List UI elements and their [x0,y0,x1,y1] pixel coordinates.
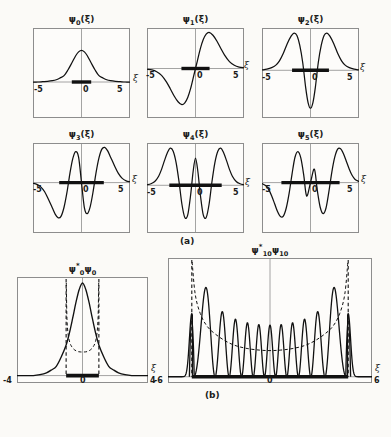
xtick-zero: 0 [197,71,203,80]
xtick-zero: 0 [83,185,89,194]
plot-psi1 [147,28,244,118]
axis-label-xi: ξ [245,177,250,187]
xtick-left: -5 [34,85,43,94]
axis-label-xi: ξ [361,174,366,184]
axis-label-xi: ξ [375,363,380,373]
axis-label-xi: ξ [244,60,249,70]
xtick-zero: 0 [312,185,318,194]
panel-title-psi4: ψ4(ξ) [147,129,244,142]
axis-label-xi: ξ [360,62,365,72]
panel-psi2: ψ2(ξ) -5 0 5 ξ [262,28,359,118]
plot-psi4 [147,143,244,233]
panel-psi3: ψ3(ξ) -5 0 5 ξ [33,143,130,233]
xtick-right: 5 [347,73,353,82]
xtick-left: -5 [262,185,271,194]
axis-label-xi: ξ [133,73,138,83]
xtick-right: 5 [118,185,124,194]
xtick-right: 5 [347,185,353,194]
axis-label-xi: ξ [132,174,137,184]
xtick-zero: 0 [267,376,273,385]
xtick-zero: 0 [197,188,203,197]
plot-psi0 [33,28,130,118]
panel-title-psi0: ψ0(ξ) [33,14,130,27]
panel-prob-psi0: ψ*0ψ0 -4 0 4 ξ [17,277,148,383]
panel-title-psi2: ψ2(ξ) [262,14,359,27]
panel-title-prob0: ψ*0ψ0 [17,262,148,277]
xtick-left: -5 [147,188,156,197]
xtick-left: -5 [262,73,271,82]
xtick-left: -5 [33,185,42,194]
plot-psi3 [33,143,130,233]
panel-psi4: ψ4(ξ) -5 0 5 ξ [147,143,244,233]
plot-prob0 [17,277,148,383]
xtick-right: 5 [117,85,123,94]
axis-label-xi: ξ [151,363,156,373]
xtick-right: 5 [233,71,239,80]
figure-root: ψ0(ξ) -5 0 5 ξ ψ1(ξ) -5 0 5 ξ ψ2(ξ) -5 0… [0,0,391,437]
xtick-left: -6 [154,376,163,385]
panel-prob-psi10: ψ*10ψ10 -6 0 6 ξ [168,258,372,383]
xtick-zero: 0 [83,85,89,94]
xtick-right: 5 [233,188,239,197]
panel-title-psi5: ψ5(ξ) [262,129,359,142]
plot-psi5 [262,143,359,233]
xtick-left: -4 [3,376,12,385]
xtick-zero: 0 [312,73,318,82]
plot-prob10 [168,258,372,383]
xtick-left: -5 [146,71,155,80]
panel-psi5: ψ5(ξ) -5 0 5 ξ [262,143,359,233]
xtick-zero: 0 [80,376,86,385]
panel-title-psi1: ψ1(ξ) [147,14,244,27]
panel-title-psi3: ψ3(ξ) [33,129,130,142]
xtick-right: 6 [374,376,380,385]
panel-psi1: ψ1(ξ) -5 0 5 ξ [147,28,244,118]
plot-psi2 [262,28,359,118]
panel-psi0: ψ0(ξ) -5 0 5 ξ [33,28,130,118]
section-label-b: (b) [205,390,220,400]
panel-title-prob10: ψ*10ψ10 [168,243,372,258]
